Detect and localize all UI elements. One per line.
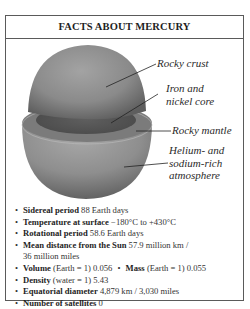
facts-list: • Sidereal period 88 Earth days • Temper… xyxy=(15,205,240,309)
upper-hemisphere xyxy=(28,45,146,119)
fact-label: Mass xyxy=(126,263,145,273)
label-line: Iron and xyxy=(166,82,214,95)
panel-title: FACTS ABOUT MERCURY xyxy=(6,16,243,39)
label-line: Helium- and xyxy=(169,144,224,157)
fact-value: 0 xyxy=(99,298,103,308)
fact-density: • Density (water = 1) 5.43 xyxy=(15,275,240,287)
fact-value: 57.9 million km / xyxy=(129,240,189,250)
bullet-icon: • xyxy=(15,205,18,217)
diagram: Rocky crust Iron and nickel core Rocky m… xyxy=(6,39,243,204)
bullet-icon: • xyxy=(15,217,18,229)
fact-value: 88 Earth days xyxy=(81,205,128,215)
fact-mean-distance: • Mean distance from the Sun 57.9 millio… xyxy=(15,240,240,263)
fact-value: 4,879 km / 3,030 miles xyxy=(100,286,179,296)
bullet-icon: • xyxy=(15,240,18,252)
bullet-separator-icon: • xyxy=(114,263,123,273)
bullet-icon: • xyxy=(15,228,18,240)
bullet-icon: • xyxy=(15,298,18,309)
fact-label: Number of satellites xyxy=(23,298,96,308)
fact-value: (Earth = 1) 0.056 xyxy=(53,263,112,273)
fact-value: (water = 1) 5.43 xyxy=(53,275,108,285)
fact-label: Temperature at surface xyxy=(23,217,109,227)
fact-value: 58.6 Earth days xyxy=(90,228,144,238)
label-line: sodium-rich xyxy=(169,157,224,170)
label-rocky-mantle: Rocky mantle xyxy=(172,124,232,137)
label-line: atmosphere xyxy=(169,169,224,182)
fact-value: −180°C to +430°C xyxy=(111,217,176,227)
fact-label: Density xyxy=(23,275,51,285)
label-rocky-crust: Rocky crust xyxy=(157,57,209,70)
facts-panel: FACTS ABOUT MERCURY xyxy=(5,15,244,301)
fact-rotational-period: • Rotational period 58.6 Earth days xyxy=(15,228,240,240)
bullet-icon: • xyxy=(15,263,18,275)
label-atmosphere: Helium- and sodium-rich atmosphere xyxy=(169,144,224,182)
fact-sidereal-period: • Sidereal period 88 Earth days xyxy=(15,205,240,217)
label-line: Rocky mantle xyxy=(172,124,232,137)
label-iron-nickel-core: Iron and nickel core xyxy=(166,82,214,107)
fact-label: Volume xyxy=(23,263,51,273)
fact-label: Rotational period xyxy=(23,228,88,238)
fact-value: (Earth = 1) 0.055 xyxy=(147,263,206,273)
fact-equatorial-diameter: • Equatorial diameter 4,879 km / 3,030 m… xyxy=(15,286,240,298)
fact-label: Sidereal period xyxy=(23,205,79,215)
bullet-icon: • xyxy=(15,275,18,287)
label-line: Rocky crust xyxy=(157,57,209,70)
fact-temperature: • Temperature at surface −180°C to +430°… xyxy=(15,217,240,229)
fact-volume-mass: • Volume (Earth = 1) 0.056 • Mass (Earth… xyxy=(15,263,240,275)
fact-satellites: • Number of satellites 0 xyxy=(15,298,240,309)
bullet-icon: • xyxy=(15,286,18,298)
fact-label: Mean distance from the Sun xyxy=(23,240,126,250)
fact-value-continued: 36 million miles xyxy=(23,251,79,261)
label-line: nickel core xyxy=(166,95,214,108)
fact-label: Equatorial diameter xyxy=(23,286,98,296)
